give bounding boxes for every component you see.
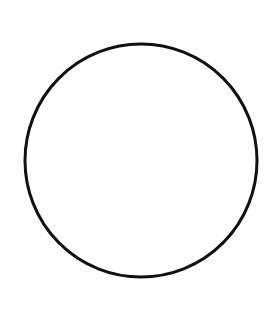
circle-figure — [0, 0, 280, 310]
drawing-canvas — [0, 0, 280, 310]
canvas-background — [0, 0, 280, 310]
